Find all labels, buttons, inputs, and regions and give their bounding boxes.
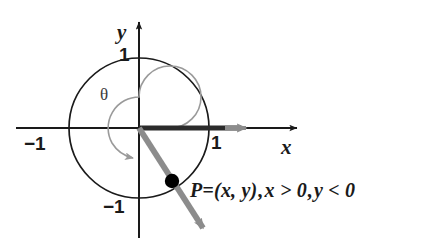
point-p-marker [165, 174, 179, 188]
diagram-canvas [0, 0, 422, 245]
point-p-coords: (x, y) [214, 179, 257, 201]
point-p-equals: = [202, 179, 214, 201]
unit-circle-figure: y 1 −1 −1 1 x θ P=(x, y), x > 0, y < 0 [0, 0, 422, 245]
y-tick-label-1: 1 [119, 45, 130, 64]
point-p-comma-2: , [307, 179, 312, 201]
x-tick-label-neg1: −1 [24, 134, 46, 153]
x-tick-label-1: 1 [211, 133, 222, 152]
point-p-x-condition: x > 0 [265, 179, 307, 201]
y-tick-label-neg1: −1 [103, 197, 125, 216]
point-p-label: P=(x, y), x > 0, y < 0 [190, 180, 355, 200]
angle-sweep-arc [108, 66, 201, 158]
theta-symbol: θ [100, 86, 108, 103]
point-p-name: P [190, 179, 202, 201]
y-axis-label: y [117, 22, 126, 43]
point-p-comma-1: , [257, 179, 262, 201]
point-p-y-condition: y < 0 [314, 179, 355, 201]
x-axis-label: x [281, 137, 292, 158]
